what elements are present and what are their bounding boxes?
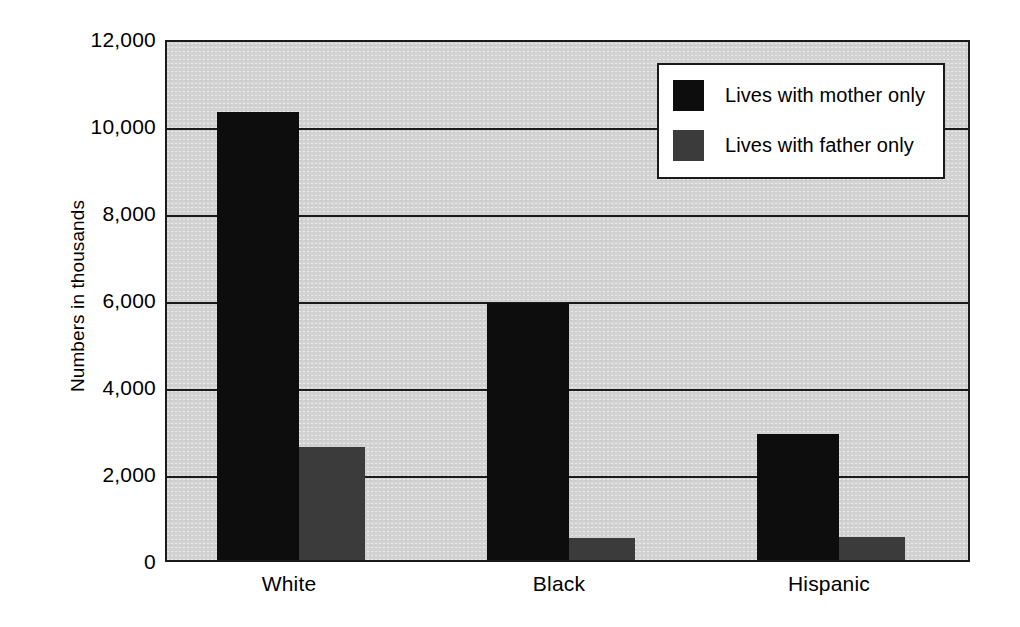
- x-axis-tick-label: White: [179, 572, 399, 596]
- bar: [839, 537, 905, 560]
- legend-swatch-mother-icon: [673, 80, 704, 111]
- y-axis-tick-labels: 02,0004,0006,0008,00010,00012,000: [24, 0, 156, 627]
- bar: [757, 434, 839, 560]
- bar: [487, 303, 569, 560]
- y-axis-tick-label: 10,000: [36, 116, 156, 137]
- legend: Lives with mother only Lives with father…: [657, 63, 945, 179]
- legend-label-mother: Lives with mother only: [725, 85, 925, 105]
- x-axis-tick-label: Hispanic: [719, 572, 939, 596]
- bar: [299, 447, 365, 560]
- bar: [217, 112, 299, 560]
- x-axis-tick-labels: WhiteBlackHispanic: [165, 572, 970, 606]
- legend-label-father: Lives with father only: [725, 135, 914, 155]
- y-axis-tick-label: 4,000: [36, 377, 156, 398]
- y-axis-tick-label: 6,000: [36, 290, 156, 311]
- legend-item-mother: Lives with mother only: [673, 79, 925, 111]
- y-axis-tick-label: 0: [36, 551, 156, 572]
- y-axis-tick-label: 8,000: [36, 203, 156, 224]
- bar: [569, 538, 635, 560]
- x-axis-tick-label: Black: [449, 572, 669, 596]
- legend-swatch-father-icon: [673, 130, 704, 161]
- y-axis-tick-label: 2,000: [36, 464, 156, 485]
- y-axis-tick-label: 12,000: [36, 29, 156, 50]
- legend-item-father: Lives with father only: [673, 129, 914, 161]
- bar-chart: Numbers in thousands 02,0004,0006,0008,0…: [0, 0, 1020, 627]
